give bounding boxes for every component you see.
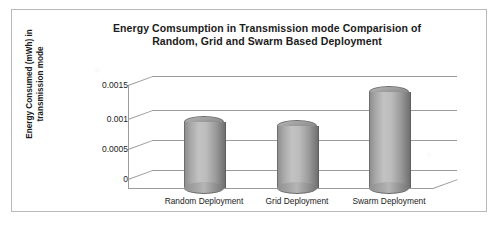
gridline-depth-0.001 xyxy=(128,110,153,120)
bar-grid-deployment xyxy=(277,126,319,188)
x-tick-label-grid-deployment: Grid Deployment xyxy=(266,196,329,206)
y-tick-label-0: 0 xyxy=(82,174,128,184)
x-tick-label-swarm-deployment: Swarm Deployment xyxy=(352,196,425,206)
gridline-depth-0 xyxy=(128,170,153,180)
y-tick-label-0.0005: 0.0005 xyxy=(82,144,128,154)
gridline-depth-0.0005 xyxy=(128,140,153,150)
gridline-0.001 xyxy=(152,110,457,111)
chart-container: Energy Comsumption in Transmission mode … xyxy=(11,9,487,212)
x-tick-label-random-deployment: Random Deployment xyxy=(165,196,244,206)
bar-swarm-deployment xyxy=(369,92,411,188)
y-axis-line xyxy=(128,85,129,189)
gridline-depth-0.0015 xyxy=(128,76,153,86)
y-axis-title-line-1: Energy Consumed (mWh) in xyxy=(24,23,35,145)
y-tick-label-0.0015: 0.0015 xyxy=(82,80,128,90)
y-tick-label-0.001: 0.001 xyxy=(82,114,128,124)
gridline-0.0015 xyxy=(152,76,457,77)
plot-area: Random Deployment Grid Deployment Swarm … xyxy=(128,10,478,213)
bar-base-swarm-deployment xyxy=(369,182,409,194)
bar-base-random-deployment xyxy=(184,182,224,194)
bar-random-deployment xyxy=(184,122,226,188)
y-axis-tick-labels: 0.0015 0.001 0.0005 0 xyxy=(76,10,128,211)
y-axis-title-line-2: transmission mode xyxy=(35,23,46,145)
bar-base-grid-deployment xyxy=(277,182,317,194)
floor-right-edge xyxy=(433,179,458,189)
y-axis-title: Energy Consumed (mWh) in transmission mo… xyxy=(24,23,46,145)
